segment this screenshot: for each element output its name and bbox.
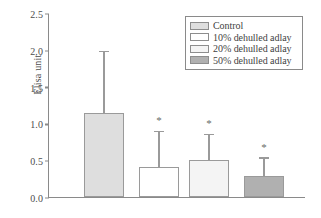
legend: Control 10% dehulled adlay 20% dehulled … bbox=[185, 16, 303, 70]
y-tick-label-0: 0.0 bbox=[30, 193, 43, 204]
error-cap-1 bbox=[99, 51, 109, 52]
y-tick-mark-0 bbox=[45, 197, 49, 198]
y-tick-label-5: 2.5 bbox=[30, 9, 43, 20]
y-tick-label-1: 0.5 bbox=[30, 156, 43, 167]
error-bar-2 bbox=[158, 132, 159, 167]
legend-label-10-percent: 10% dehulled adlay bbox=[213, 32, 292, 43]
y-tick-5: 2.5 bbox=[30, 9, 49, 20]
y-tick-0: 0.0 bbox=[30, 193, 49, 204]
legend-label-50-percent: 50% dehulled adlay bbox=[213, 55, 292, 66]
legend-item-10-percent[interactable]: 10% dehulled adlay bbox=[190, 32, 298, 44]
bar-3 bbox=[189, 160, 229, 197]
legend-swatch-20-percent bbox=[190, 45, 209, 53]
error-cap-2 bbox=[154, 131, 164, 132]
y-tick-2: 1.0 bbox=[30, 119, 49, 130]
legend-item-control[interactable]: Control bbox=[190, 20, 298, 32]
legend-swatch-control bbox=[190, 22, 209, 30]
y-tick-label-4: 2.0 bbox=[30, 45, 43, 56]
y-tick-mark-1 bbox=[45, 161, 49, 162]
y-tick-mark-5 bbox=[45, 13, 49, 14]
bar-2 bbox=[139, 167, 179, 197]
significance-star-2: * bbox=[156, 117, 162, 123]
legend-swatch-10-percent bbox=[190, 33, 209, 41]
legend-label-control: Control bbox=[213, 20, 243, 31]
legend-swatch-50-percent bbox=[190, 56, 209, 64]
y-tick-mark-2 bbox=[45, 124, 49, 125]
elisa-unit-bar-chart: Elisa unit 0.0 0.5 1.0 1.5 2.0 2.5 *** bbox=[0, 0, 321, 218]
significance-star-4: * bbox=[261, 144, 267, 150]
bar-4 bbox=[244, 176, 284, 197]
error-cap-4 bbox=[259, 157, 269, 158]
significance-star-3: * bbox=[206, 120, 212, 126]
error-bar-4 bbox=[263, 159, 264, 176]
bar-1 bbox=[84, 113, 124, 197]
error-cap-3 bbox=[204, 134, 214, 135]
y-tick-4: 2.0 bbox=[30, 45, 49, 56]
legend-item-50-percent[interactable]: 50% dehulled adlay bbox=[190, 55, 298, 67]
y-tick-3: 1.5 bbox=[30, 82, 49, 93]
y-tick-1: 0.5 bbox=[30, 156, 49, 167]
error-bar-1 bbox=[103, 52, 104, 113]
legend-label-20-percent: 20% dehulled adlay bbox=[213, 43, 292, 54]
y-tick-mark-4 bbox=[45, 50, 49, 51]
y-tick-label-2: 1.0 bbox=[30, 119, 43, 130]
error-bar-3 bbox=[208, 135, 209, 160]
y-tick-mark-3 bbox=[45, 87, 49, 88]
y-tick-label-3: 1.5 bbox=[30, 82, 43, 93]
legend-item-20-percent[interactable]: 20% dehulled adlay bbox=[190, 43, 298, 55]
